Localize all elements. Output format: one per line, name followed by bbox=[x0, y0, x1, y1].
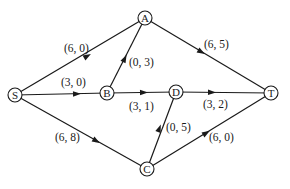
node-label-c: C bbox=[143, 163, 150, 175]
node-label-s: S bbox=[12, 89, 18, 101]
node-t: T bbox=[264, 86, 278, 100]
node-label-t: T bbox=[268, 87, 275, 99]
edge-label-c-t: (6, 0) bbox=[209, 131, 234, 144]
node-a: A bbox=[138, 11, 152, 25]
node-label-b: B bbox=[103, 87, 110, 99]
node-label-d: D bbox=[172, 86, 180, 98]
edge-label-s-a: (6, 0) bbox=[64, 42, 89, 55]
edge-label-s-c: (6, 8) bbox=[55, 131, 80, 144]
node-c: C bbox=[140, 162, 154, 176]
arrow-icon-s-c bbox=[92, 137, 102, 146]
edge-d-t bbox=[176, 92, 271, 93]
node-label-a: A bbox=[141, 12, 149, 24]
arrow-icon-b-d bbox=[140, 90, 148, 96]
edge-label-a-t: (6, 5) bbox=[204, 38, 229, 51]
flow-network-diagram: (6, 0) (3, 0) (6, 8) (0, 3) (3, 1) (6, 5… bbox=[0, 0, 290, 189]
node-b: B bbox=[100, 86, 114, 100]
edge-label-d-t: (3, 2) bbox=[203, 98, 228, 111]
edge-s-b bbox=[15, 93, 107, 95]
arrow-icon-s-b bbox=[73, 91, 81, 97]
edge-label-s-b: (3, 0) bbox=[61, 76, 86, 89]
edge-label-c-d: (0, 5) bbox=[166, 121, 191, 134]
arrow-icon-d-t bbox=[208, 90, 216, 96]
edge-s-c bbox=[15, 95, 147, 169]
node-d: D bbox=[169, 85, 183, 99]
edge-label-b-a: (0, 3) bbox=[129, 56, 154, 69]
node-s: S bbox=[8, 88, 22, 102]
edge-a-t bbox=[145, 18, 271, 93]
edge-label-b-d: (3, 1) bbox=[129, 100, 154, 113]
arrow-icon-b-a bbox=[121, 54, 130, 64]
